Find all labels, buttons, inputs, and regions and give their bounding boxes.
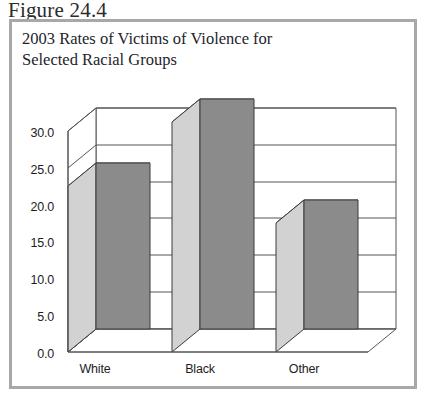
chart-title: 2003 Rates of Victims of Violence for Se… xyxy=(22,28,352,70)
figure-frame xyxy=(9,19,417,389)
chart-title-line-1: 2003 Rates of Victims of Violence for xyxy=(22,28,352,49)
chart-title-line-2: Selected Racial Groups xyxy=(22,49,352,70)
